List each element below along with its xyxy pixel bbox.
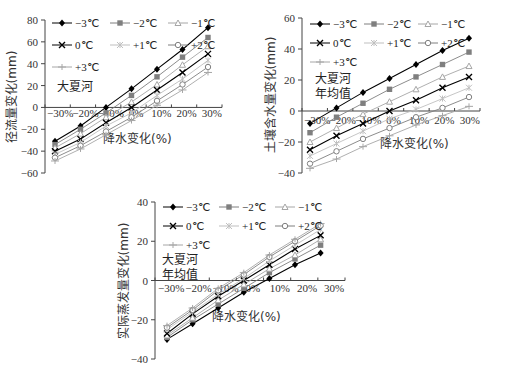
x-axis-title: 降水变化(%) (103, 131, 172, 146)
y-tick-label: −40 (21, 145, 39, 157)
legend-entry: 0℃ (75, 39, 93, 51)
x-tick-label: 30% (202, 107, 222, 119)
legend-entry: +3℃ (333, 56, 357, 68)
y-tick-label: −40 (278, 167, 296, 179)
y-tick-label: 40 (137, 196, 149, 208)
y-tick-label: 80 (27, 14, 39, 26)
y-tick-label: −20 (21, 123, 39, 135)
chart-legend: −3℃−2℃−1℃0℃+1℃+2℃+3℃ (52, 17, 215, 73)
chart-2: 6040200−20−40−30%−20%−10%0%10%20%30%土壤含水… (263, 12, 480, 179)
y-tick-label: 20 (27, 80, 39, 92)
y-tick-label: 40 (27, 58, 39, 70)
chart-annotation: 大夏河 (162, 253, 198, 267)
chart-annotation: 年均值 (315, 86, 351, 101)
y-tick-label: −40 (131, 353, 149, 365)
x-tick-label: −20% (72, 107, 98, 119)
y-tick-label: 0 (290, 105, 296, 117)
legend-entry: −1℃ (191, 17, 215, 29)
chart-1: 806040200−20−40−60−30%−20%−10%0%10%20%30… (4, 14, 222, 179)
y-tick-label: 0 (33, 101, 39, 113)
y-axis-title: 径流量变化(mm) (4, 51, 19, 144)
legend-entry: +2℃ (191, 39, 215, 51)
legend-entry: +3℃ (186, 239, 210, 251)
x-tick-label: 10% (151, 107, 171, 119)
y-axis-title: 实际蒸发量变化(mm) (116, 223, 131, 340)
y-tick-label: 40 (284, 43, 296, 55)
legend-entry: −3℃ (75, 17, 99, 29)
legend-entry: −2℃ (387, 18, 411, 30)
x-tick-label: −30% (158, 282, 184, 294)
y-axis-title: 土壤含水量变化(mm) (263, 37, 278, 154)
x-tick-label: 30% (460, 114, 480, 126)
legend-entry: +1℃ (387, 37, 411, 49)
x-tick-label: 20% (177, 107, 197, 119)
chart-3: 40200−20−40−30%−20%−10%0%10%20%30%实际蒸发量变… (116, 196, 345, 365)
legend-entry: −3℃ (186, 201, 210, 213)
x-axis-title: 降水变化(%) (212, 309, 281, 324)
legend-entry: +1℃ (133, 39, 157, 51)
chart-annotation: 年均值 (162, 267, 198, 282)
legend-entry: −2℃ (133, 17, 157, 29)
y-tick-label: −20 (278, 136, 296, 148)
legend-entry: +2℃ (298, 220, 322, 232)
x-axis-title: 降水变化(%) (380, 136, 449, 151)
chart-legend: −3℃−2℃−1℃0℃+1℃+2℃+3℃ (310, 18, 465, 68)
legend-entry: −1℃ (298, 201, 322, 213)
legend-entry: −3℃ (333, 18, 357, 30)
legend-entry: 0℃ (186, 220, 204, 232)
x-tick-label: −20% (185, 282, 211, 294)
y-tick-label: 60 (27, 36, 39, 48)
figure-canvas: 806040200−20−40−60−30%−20%−10%0%10%20%30… (0, 0, 505, 375)
y-tick-label: 20 (284, 74, 296, 86)
legend-entry: −1℃ (441, 18, 465, 30)
y-tick-label: −20 (131, 314, 149, 326)
chart-annotation: 大夏河 (57, 80, 93, 94)
x-tick-label: 10% (270, 282, 290, 294)
x-tick-label: −30% (47, 107, 73, 119)
legend-entry: +3℃ (75, 61, 99, 73)
legend-entry: +2℃ (441, 37, 465, 49)
y-tick-label: −60 (21, 167, 39, 179)
x-tick-label: 30% (324, 282, 344, 294)
y-tick-label: 20 (137, 235, 149, 247)
y-tick-label: 60 (284, 12, 296, 24)
legend-entry: −2℃ (242, 201, 266, 213)
y-tick-label: 0 (143, 275, 149, 287)
legend-entry: +1℃ (242, 220, 266, 232)
x-tick-label: 20% (297, 282, 317, 294)
legend-entry: 0℃ (333, 37, 351, 49)
chart-annotation: 大夏河 (315, 72, 351, 86)
